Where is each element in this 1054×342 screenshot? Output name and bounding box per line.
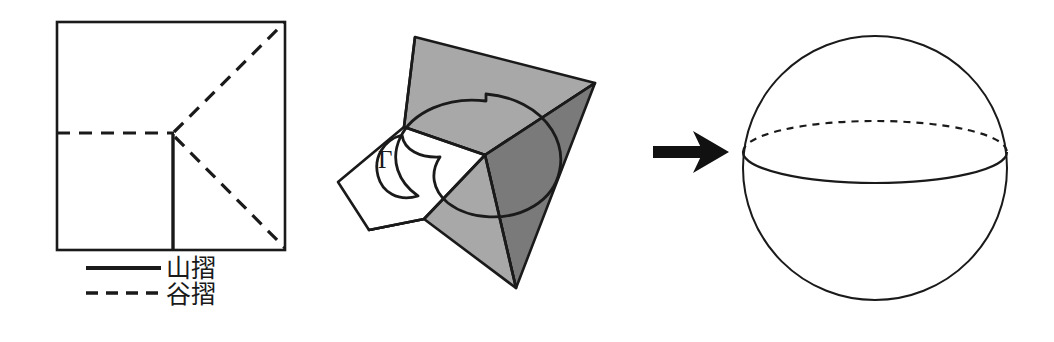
- legend: 山摺 谷摺: [86, 254, 216, 309]
- crease-pattern-panel: 山摺 谷摺: [57, 22, 285, 309]
- legend-label-valley-fold: 谷摺: [166, 280, 216, 309]
- legend-item-valley-fold: 谷摺: [86, 280, 216, 309]
- valley-crease-diagonal-up: [174, 22, 285, 132]
- sphere-panel: [743, 36, 1007, 300]
- folded-form-panel: Γ: [338, 37, 595, 288]
- paper-square-outline: [57, 22, 285, 250]
- legend-item-mountain-fold: 山摺: [86, 254, 216, 283]
- valley-crease-diagonal-down: [175, 137, 285, 248]
- legend-label-mountain-fold: 山摺: [166, 254, 216, 283]
- gamma-curve-label: Γ: [378, 146, 392, 173]
- arrow-shaft: [653, 146, 707, 158]
- transform-arrow: [653, 131, 729, 173]
- sphere-outline: [743, 36, 1007, 300]
- figure-canvas: 山摺 谷摺: [0, 0, 1054, 342]
- figure-root: 山摺 谷摺: [0, 0, 1054, 342]
